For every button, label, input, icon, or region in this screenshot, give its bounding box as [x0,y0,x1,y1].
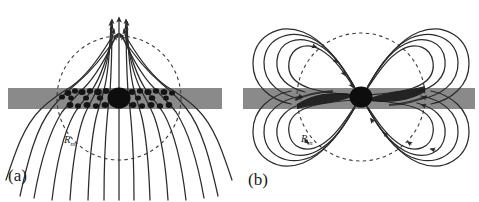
panel-a: Rm [0,0,240,202]
figure-container: Rm [0,0,479,202]
radius-label-a: Rm [63,134,75,148]
panel-label-b: (b) [248,170,268,190]
central-body [350,87,373,108]
radius-label-b: Rm [300,133,312,147]
central-body [108,88,131,109]
panel-b: Rm [239,0,479,202]
panel-label-a: (a) [8,166,27,186]
